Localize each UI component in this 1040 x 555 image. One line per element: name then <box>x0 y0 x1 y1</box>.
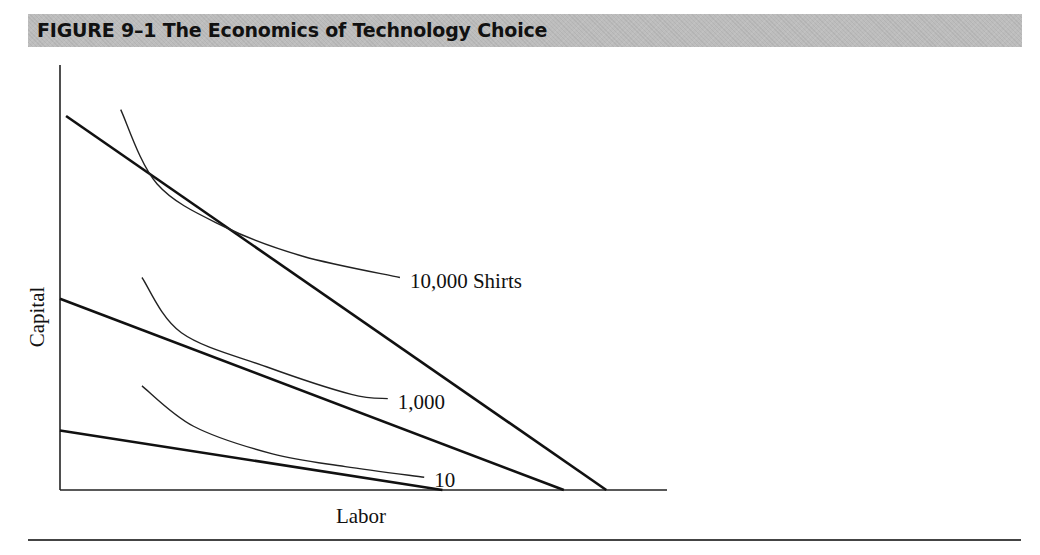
y-axis-label: Capital <box>25 287 49 348</box>
axes <box>60 65 667 490</box>
isoquant-curve <box>142 386 424 477</box>
bottom-rule <box>28 539 1021 541</box>
isocost-low-line <box>60 431 442 491</box>
isoquant-curve <box>142 278 388 399</box>
isoquant-curve <box>121 110 400 278</box>
isoquant-label: 10,000 Shirts <box>410 269 522 293</box>
isocost-high-line <box>66 116 606 490</box>
isoquant-label: 1,000 <box>398 390 445 414</box>
isocost-lines <box>60 116 606 490</box>
isoquant-label: 10 <box>434 468 455 492</box>
curve-labels: 10,000 Shirts1,00010 <box>398 269 522 493</box>
isoquant-curves <box>121 110 425 478</box>
chart-svg: 10,000 Shirts1,00010 Labor Capital <box>0 0 1040 555</box>
x-axis-label: Labor <box>336 504 386 528</box>
